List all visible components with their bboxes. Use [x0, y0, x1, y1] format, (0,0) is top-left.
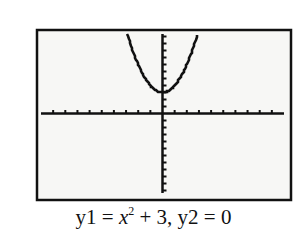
caption-y1-label: y1 = [76, 205, 119, 229]
screen-frame [37, 30, 291, 200]
caption-variable: x [119, 205, 128, 229]
caption-rest: + 3, y2 = 0 [134, 205, 231, 229]
calculator-graph-screen [0, 0, 307, 205]
figure-caption: y1 = x2 + 3, y2 = 0 [0, 205, 307, 229]
